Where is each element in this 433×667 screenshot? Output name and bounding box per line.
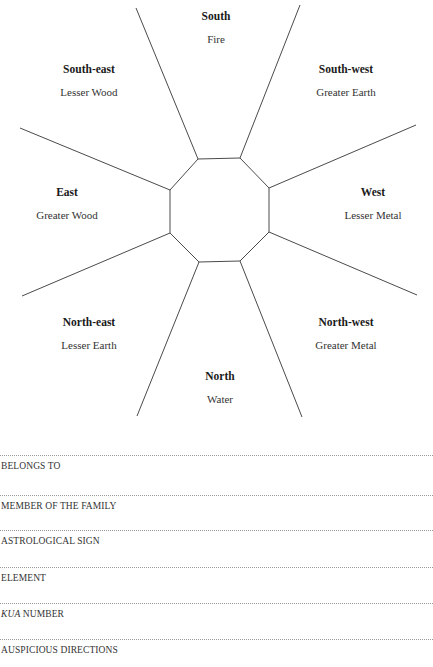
field-label: KUA NUMBER: [0, 609, 433, 619]
dotted-rule: [0, 639, 433, 640]
field-label: ASTROLOGICAL SIGN: [0, 536, 433, 546]
direction-name: West: [303, 186, 433, 198]
form-field-belongs-to[interactable]: BELONGS TO: [0, 455, 433, 471]
direction-east: East Greater Wood: [0, 186, 137, 221]
dotted-rule: [0, 495, 433, 496]
spoke-line: [269, 232, 417, 295]
direction-element: Water: [150, 393, 290, 405]
field-label: ELEMENT: [0, 573, 433, 583]
form-field-astrological-sign[interactable]: ASTROLOGICAL SIGN: [0, 530, 433, 546]
direction-element: Lesser Wood: [19, 86, 159, 98]
dotted-rule: [0, 455, 433, 456]
spoke-line: [269, 125, 416, 188]
direction-south-east: South-east Lesser Wood: [19, 63, 159, 98]
direction-south: South Fire: [146, 10, 286, 45]
direction-name: North: [150, 370, 290, 382]
direction-name: North-west: [276, 316, 416, 328]
field-label: MEMBER OF THE FAMILY: [0, 501, 433, 511]
dotted-rule: [0, 530, 433, 531]
direction-element: Greater Wood: [0, 209, 137, 221]
form-field-auspicious-directions[interactable]: AUSPICIOUS DIRECTIONS: [0, 639, 433, 655]
direction-north-east: North-east Lesser Earth: [19, 316, 159, 351]
direction-name: South-east: [19, 63, 159, 75]
direction-element: Greater Metal: [276, 339, 416, 351]
field-label: AUSPICIOUS DIRECTIONS: [0, 645, 433, 655]
direction-name: South: [146, 10, 286, 22]
form-field-element[interactable]: ELEMENT: [0, 567, 433, 583]
dotted-rule: [0, 567, 433, 568]
form-field-member-of-family[interactable]: MEMBER OF THE FAMILY: [0, 495, 433, 511]
direction-north: North Water: [150, 370, 290, 405]
spoke-line: [20, 128, 170, 190]
direction-element: Fire: [146, 33, 286, 45]
direction-element: Lesser Earth: [19, 339, 159, 351]
dotted-rule: [0, 603, 433, 604]
direction-name: South-west: [276, 63, 416, 75]
direction-north-west: North-west Greater Metal: [276, 316, 416, 351]
spoke-line: [22, 233, 170, 296]
form-field-kua-number[interactable]: KUA NUMBER: [0, 603, 433, 619]
direction-name: East: [0, 186, 137, 198]
direction-west: West Lesser Metal: [303, 186, 433, 221]
direction-element: Lesser Metal: [303, 209, 433, 221]
direction-south-west: South-west Greater Earth: [276, 63, 416, 98]
direction-element: Greater Earth: [276, 86, 416, 98]
direction-name: North-east: [19, 316, 159, 328]
field-label: BELONGS TO: [0, 461, 433, 471]
center-octagon: [170, 158, 269, 262]
